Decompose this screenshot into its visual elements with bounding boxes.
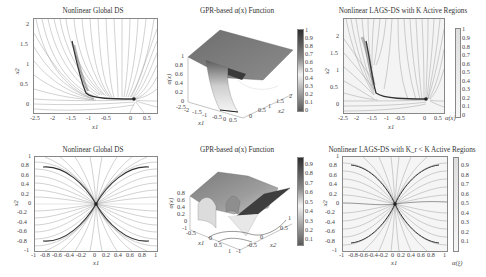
colorbar-tick: 0.5 xyxy=(305,199,313,205)
y-tick: 1 xyxy=(268,103,271,109)
streamlines xyxy=(343,157,447,251)
y-tick: -0.6 xyxy=(325,228,335,234)
colorbar-tick: 0.7 xyxy=(305,180,313,186)
streamlines xyxy=(35,157,157,251)
colorbar-tick: 0.4 xyxy=(305,208,313,214)
attractor-marker xyxy=(393,202,397,206)
streamline-plot xyxy=(343,18,445,114)
y-axis-label: x2 xyxy=(14,68,21,74)
colorbar-tick: 0.6 xyxy=(305,59,313,65)
colorbar-tick: 0.4 xyxy=(461,210,469,216)
z-tick: 0.2 xyxy=(175,89,183,95)
y-tick: 1.5 xyxy=(20,41,28,47)
x-tick: 0.6 xyxy=(126,252,134,258)
x-tick: -2 xyxy=(184,107,189,113)
y-tick: 0.5 xyxy=(280,225,288,231)
x-tick: -0.6 xyxy=(52,252,62,258)
x-tick: 0.4 xyxy=(114,252,122,258)
colorbar-tick: 0.4 xyxy=(462,78,470,84)
colorbar-tick: 0.1 xyxy=(461,238,469,244)
colorbar xyxy=(297,29,304,112)
x-tick: -1.5 xyxy=(66,115,76,121)
x-tick: 0.2 xyxy=(102,252,110,258)
y-axis-label: x2 xyxy=(270,242,276,249)
colorbar-tick: 0.7 xyxy=(305,51,313,57)
y-tick: 0 xyxy=(260,234,263,240)
y-axis-label: x2 xyxy=(322,200,329,206)
y-tick: -0.2 xyxy=(17,209,27,215)
x-tick: -0.2 xyxy=(378,252,388,258)
z-tick: 0.4 xyxy=(175,80,183,86)
x-tick: 0 xyxy=(423,115,426,121)
x-tick: -0.8 xyxy=(40,252,50,258)
x-tick: 1 xyxy=(443,252,446,258)
colorbar-tick: 0.2 xyxy=(462,95,470,101)
attractor-marker xyxy=(424,97,428,101)
x-tick: -1 xyxy=(86,115,91,121)
colorbar-tick: 0.7 xyxy=(462,52,470,58)
x-tick: -0.5 xyxy=(395,115,405,121)
plot-title: Nonlinear LAGS-DS with K Active Regions xyxy=(328,7,478,15)
x-tick: 0.5 xyxy=(214,242,222,248)
x-tick: 0.5 xyxy=(229,117,237,123)
streamline-plot xyxy=(33,18,158,114)
streamline-plot xyxy=(342,156,448,252)
x-tick: 0 xyxy=(223,116,226,122)
plot-title: Nonlinear LAGS-DS with K_r < K Active Re… xyxy=(322,146,482,154)
x-tick: -1 xyxy=(339,252,344,258)
x-tick: 1 xyxy=(154,252,157,258)
colorbar-tick: 0.8 xyxy=(461,172,469,178)
streamlines xyxy=(344,19,444,113)
plot-title: Nonlinear Global DS xyxy=(38,7,148,15)
y-axis-label: x2 xyxy=(13,200,20,206)
colorbar-tick: 0.3 xyxy=(305,83,313,89)
colorbar-tick: 0 xyxy=(305,107,308,113)
y-tick: -0.4 xyxy=(325,219,335,225)
colorbar-tick: 0.5 xyxy=(305,67,313,73)
x-tick: 0.6 xyxy=(417,252,425,258)
x-tick: -2 xyxy=(354,115,359,121)
x-axis-label: x1 xyxy=(198,240,204,247)
y-tick: 2 xyxy=(26,21,29,27)
colorbar-tick: 0.1 xyxy=(462,103,470,109)
x-tick: 0.8 xyxy=(427,252,435,258)
x-tick: -0.5 xyxy=(186,230,196,236)
x-axis-label: x1 xyxy=(391,260,397,267)
plot-title: GPR-based α(x) Function xyxy=(182,7,292,15)
plot-title: Nonlinear Global DS xyxy=(38,146,148,154)
y-axis-label: x2 xyxy=(278,108,284,115)
x-tick: -0.4 xyxy=(368,252,378,258)
colorbar-tick: 0.7 xyxy=(461,181,469,187)
x-tick: -0.5 xyxy=(101,115,111,121)
x-tick: -0.2 xyxy=(76,252,86,258)
colorbar-tick: 0.3 xyxy=(462,86,470,92)
plot-title: GPR-based α(x) Function xyxy=(182,146,292,154)
colorbar-tick: 0.9 xyxy=(462,35,470,41)
x-tick: 0.4 xyxy=(407,252,415,258)
colorbar-tick: 0.2 xyxy=(461,229,469,235)
x-tick: -1 xyxy=(384,115,389,121)
z-tick: 0.6 xyxy=(175,71,183,77)
colorbar-tick: 0.2 xyxy=(305,91,313,97)
y-tick: 1 xyxy=(288,215,291,221)
y-tick: 0 xyxy=(28,200,31,206)
colorbar xyxy=(453,157,459,252)
x-tick: 0.5 xyxy=(143,115,151,121)
surface-plot-3d xyxy=(168,20,296,120)
colorbar-tick: 0.9 xyxy=(461,162,469,168)
x-axis-label: x1 xyxy=(93,260,99,267)
x-axis-label: x1 xyxy=(198,120,204,127)
colorbar xyxy=(297,157,304,246)
colorbar-tick: 0.8 xyxy=(305,43,313,49)
x-tick: -1 xyxy=(31,252,36,258)
x-tick: 0 xyxy=(209,235,212,241)
colorbar-tick: 0.3 xyxy=(305,218,313,224)
colorbar-tick: 0.4 xyxy=(305,75,313,81)
surface-plot-3d xyxy=(168,158,296,253)
colorbar-tick: 1 xyxy=(305,27,308,33)
x-tick: -1 xyxy=(202,112,207,118)
colorbar-tick: 0.5 xyxy=(461,200,469,206)
x-axis-label: x1 xyxy=(92,124,98,131)
y-tick: 0.5 xyxy=(20,81,28,87)
z-tick: 0.8 xyxy=(175,62,183,68)
